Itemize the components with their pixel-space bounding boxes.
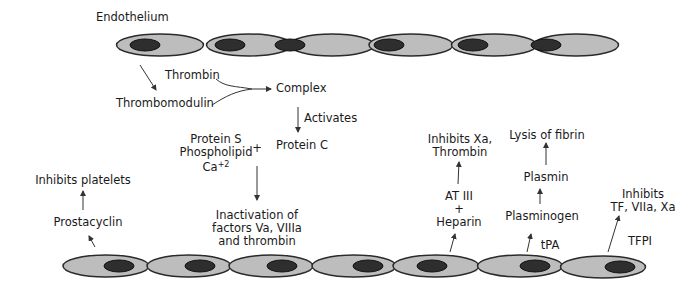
inhibits-platelets-label: Inhibits platelets [33, 174, 133, 188]
tfpi-to-inhibits-tf-arrow [608, 216, 619, 252]
cell-nucleus [353, 260, 383, 272]
heparin-label: Heparin [430, 216, 488, 230]
arrows [83, 65, 619, 252]
endothelial-cell [531, 34, 619, 56]
cell-nucleus [185, 260, 215, 272]
cell-nucleus [130, 39, 160, 51]
cell-to-prostacyclin-arrow [89, 236, 95, 247]
endothelial-cell [229, 255, 313, 277]
cell-nucleus [275, 39, 305, 51]
inhibits-tf-line-2: TF, VIIa, Xa [600, 201, 686, 215]
thrombin-to-complex-arrow [216, 79, 252, 89]
cell-to-heparin-arrow [450, 234, 455, 252]
cell-nucleus [605, 261, 635, 273]
protein-c-label: Protein C [276, 139, 328, 153]
thrombin-label: Thrombin [165, 69, 220, 83]
endothelial-cell [275, 34, 374, 56]
endothelial-cell [147, 255, 231, 277]
thrombomodulin-to-complex-arrow [212, 89, 252, 105]
endothelium-to-thrombomodulin-arrow [140, 65, 156, 90]
cell-nucleus [215, 39, 245, 51]
tpa-to-plasminogen-arrow [527, 234, 531, 252]
thrombomodulin-label: Thrombomodulin [116, 97, 214, 111]
endothelium-title: Endothelium [96, 11, 169, 25]
inhibits-xa-line-2: Thrombin [424, 146, 496, 160]
at-iii-to-inhibits-xa-arrow [458, 162, 459, 184]
plasmin-label: Plasmin [518, 171, 574, 185]
cell-nucleus [531, 39, 561, 51]
cell-nucleus [374, 39, 404, 51]
endothelium-diagram [0, 0, 692, 289]
top-endothelial-layer [117, 34, 619, 56]
cell-nucleus [520, 260, 550, 272]
tpa-label: tPA [538, 239, 562, 253]
lysis-of-fibrin-label: Lysis of fibrin [505, 129, 589, 143]
cell-nucleus [458, 39, 488, 51]
endothelial-cell [117, 34, 204, 56]
endothelial-cell [561, 256, 646, 278]
endothelial-cell [478, 255, 563, 277]
complex-label: Complex [276, 82, 326, 96]
tfpi-label: TFPI [620, 235, 660, 249]
endothelial-cell [393, 255, 479, 277]
endothelial-cell [369, 34, 453, 56]
endothelial-cell [312, 255, 396, 277]
plus-sign: + [251, 142, 263, 156]
prostacyclin-label: Prostacyclin [48, 216, 128, 230]
bottom-endothelial-layer [63, 255, 646, 278]
endothelial-cell [452, 34, 537, 56]
endothelial-cell [63, 255, 149, 277]
cell-nucleus [417, 260, 447, 272]
activates-label: Activates [304, 112, 357, 126]
cell-nucleus [104, 260, 134, 272]
inactivation-line-3: and thrombin [207, 235, 307, 249]
plasminogen-label: Plasminogen [500, 210, 584, 224]
cell-nucleus [267, 260, 297, 272]
calcium-label: Ca+2 [196, 158, 236, 175]
